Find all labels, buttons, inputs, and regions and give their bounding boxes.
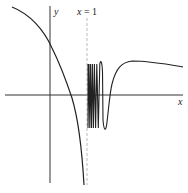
left-branch-curve (12, 7, 84, 185)
asymptote-label-eq: = 1 (81, 6, 97, 17)
function-graph: y x = 1 x (0, 0, 188, 193)
x-axis-label: x (177, 96, 183, 107)
y-axis-label: y (53, 6, 59, 17)
asymptote-label: x = 1 (76, 6, 97, 17)
